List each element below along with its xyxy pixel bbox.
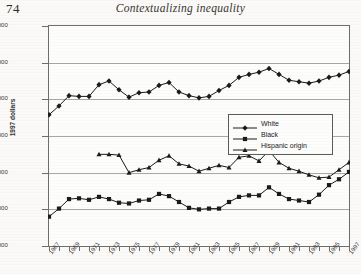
data-point-marker <box>217 163 222 168</box>
square-marker-icon <box>232 130 258 140</box>
data-point-marker <box>126 94 131 100</box>
data-point-marker <box>267 185 271 189</box>
y-tick-label: 35,000 <box>0 95 8 101</box>
x-tick-mark <box>159 247 160 251</box>
data-point-marker <box>266 66 271 72</box>
legend-label: Black <box>261 131 278 138</box>
legend-item-white[interactable]: White <box>232 118 328 129</box>
data-point-marker <box>67 197 71 201</box>
data-point-marker <box>107 197 111 201</box>
data-point-marker <box>227 200 231 204</box>
data-point-marker <box>206 94 211 100</box>
data-point-marker <box>167 194 171 198</box>
data-point-marker <box>247 193 251 197</box>
y-tick-label: 30,000 <box>0 132 8 138</box>
data-point-marker <box>276 72 281 78</box>
y-tick-label: 25,000 <box>0 169 8 175</box>
data-point-marker <box>97 195 101 199</box>
data-point-marker <box>346 69 350 75</box>
data-point-marker <box>316 78 321 84</box>
x-tick-mark <box>339 247 340 251</box>
y-tick-label: 20,000 <box>0 205 8 211</box>
x-tick-mark <box>59 247 60 251</box>
data-point-marker <box>297 198 301 202</box>
y-axis-title: 1997 dollars <box>9 86 16 150</box>
x-tick-mark <box>179 247 180 251</box>
data-point-marker <box>127 201 131 205</box>
running-head: 74 Contextualizing inequality <box>0 0 361 20</box>
data-point-marker <box>287 166 292 171</box>
data-point-marker <box>117 201 121 205</box>
x-tick-mark <box>319 247 320 251</box>
y-tick-mark <box>42 209 48 210</box>
data-point-marker <box>327 183 331 187</box>
y-tick-label: 15,000 <box>0 242 8 248</box>
data-point-marker <box>286 77 291 83</box>
data-point-marker <box>186 93 191 99</box>
data-point-marker <box>347 160 351 165</box>
y-tick-mark <box>42 246 48 247</box>
data-point-marker <box>337 177 341 181</box>
x-tick-mark <box>79 247 80 251</box>
x-tick-mark <box>119 247 120 251</box>
data-point-marker <box>146 89 151 95</box>
x-tick-mark <box>219 247 220 251</box>
data-point-marker <box>76 94 81 100</box>
data-point-marker <box>217 207 221 211</box>
data-point-marker <box>287 197 291 201</box>
legend-item-hispanic-origin[interactable]: Hispanic origin <box>232 140 328 151</box>
data-point-marker <box>347 170 350 174</box>
data-point-marker <box>277 192 281 196</box>
data-point-marker <box>257 193 261 197</box>
y-tick-label: 45,000 <box>0 22 8 28</box>
data-point-marker <box>306 80 311 86</box>
x-tick-mark <box>99 247 100 251</box>
legend-label: Hispanic origin <box>261 142 307 149</box>
x-tick-mark <box>259 247 260 251</box>
legend-item-black[interactable]: Black <box>232 129 328 140</box>
data-point-marker <box>326 75 331 81</box>
series-white <box>48 66 350 118</box>
x-tick-mark <box>279 247 280 251</box>
y-tick-mark <box>42 173 48 174</box>
data-point-marker <box>196 95 201 101</box>
data-point-marker <box>187 206 191 210</box>
data-point-marker <box>216 88 221 94</box>
legend-label: White <box>261 120 279 127</box>
data-point-marker <box>336 72 341 78</box>
y-tick-label: 40,000 <box>0 59 8 65</box>
series-line <box>49 69 349 115</box>
data-point-marker <box>237 195 241 199</box>
data-point-marker <box>307 200 311 204</box>
data-point-marker <box>197 207 201 211</box>
diamond-marker-icon <box>232 119 258 129</box>
y-tick-mark <box>42 99 48 100</box>
data-point-marker <box>177 200 181 204</box>
x-tick-mark <box>199 247 200 251</box>
chart-legend: WhiteBlackHispanic origin <box>228 114 333 155</box>
data-point-marker <box>136 90 141 96</box>
data-point-marker <box>296 79 301 85</box>
data-point-marker <box>147 165 152 170</box>
data-point-marker <box>207 207 211 211</box>
y-tick-mark <box>42 26 48 27</box>
data-point-marker <box>137 198 141 202</box>
running-head-title: Contextualizing inequality <box>0 2 361 14</box>
income-line-chart: 1997 dollars WhiteBlackHispanic origin 4… <box>0 18 361 274</box>
data-point-marker <box>167 153 172 158</box>
y-tick-mark <box>42 136 48 137</box>
x-tick-mark <box>299 247 300 251</box>
data-point-marker <box>57 207 61 211</box>
data-point-marker <box>87 198 91 202</box>
y-tick-mark <box>42 63 48 64</box>
data-point-marker <box>156 83 161 89</box>
data-point-marker <box>77 196 81 200</box>
triangle-marker-icon <box>232 141 258 151</box>
data-point-marker <box>317 193 321 197</box>
x-tick-mark <box>239 247 240 251</box>
data-point-marker <box>48 215 51 219</box>
data-point-marker <box>246 72 251 78</box>
x-tick-mark <box>139 247 140 251</box>
data-point-marker <box>256 69 261 75</box>
data-point-marker <box>157 192 161 196</box>
